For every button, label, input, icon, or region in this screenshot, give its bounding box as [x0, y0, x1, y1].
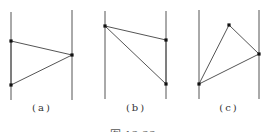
- panel-a: [9, 10, 73, 100]
- panel-label-b: (b): [126, 102, 146, 113]
- vertex-point: [227, 23, 230, 26]
- panel-b: [103, 11, 167, 99]
- vertex-point: [197, 82, 200, 85]
- vertex-point: [9, 83, 12, 86]
- vertex-point: [164, 82, 167, 85]
- vertex-point: [103, 24, 106, 27]
- vertex-point: [164, 38, 167, 41]
- triangle: [199, 25, 259, 84]
- vertex-point: [70, 53, 73, 56]
- panel-label-c: (c): [219, 102, 238, 113]
- panel-label-a: (a): [32, 102, 52, 113]
- vertex-point: [257, 52, 260, 55]
- figure-caption: 图 13.33: [110, 126, 156, 132]
- triangle: [11, 41, 72, 85]
- triangle: [105, 26, 166, 84]
- panel-c: [197, 10, 260, 99]
- vertex-point: [9, 39, 12, 42]
